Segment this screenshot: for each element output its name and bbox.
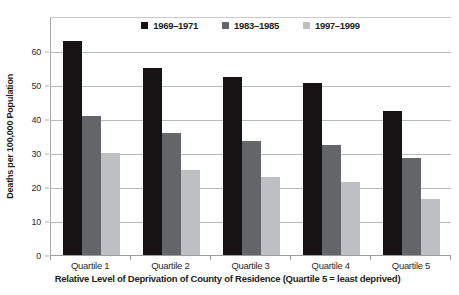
legend-item-1983-1985: 1983–1985 [222, 20, 279, 31]
bar-series3-quartile-5 [421, 199, 440, 255]
legend-label: 1983–1985 [234, 20, 279, 31]
y-tick-label-20: 20 [32, 184, 41, 193]
bar-series2-quartile-1 [82, 116, 101, 255]
bar-series3-quartile-2 [181, 170, 200, 255]
bar-series1-quartile-2 [143, 68, 162, 255]
y-tick-label-40: 40 [32, 116, 41, 125]
y-tick-label-10: 10 [32, 218, 41, 227]
legend-swatch-icon [141, 22, 148, 29]
x-category-label: Quartile 5 [371, 260, 451, 271]
plot-area [50, 17, 451, 256]
x-tick-mark [130, 256, 131, 260]
bar-series2-quartile-4 [322, 145, 341, 256]
legend-label: 1969–1971 [153, 20, 198, 31]
y-tick-label-0: 0 [36, 252, 41, 261]
bar-series1-quartile-3 [223, 77, 242, 256]
legend-item-1997-1999: 1997–1999 [303, 20, 360, 31]
bar-series1-quartile-4 [303, 83, 322, 255]
x-category-label: Quartile 3 [210, 260, 290, 271]
gridline-60 [51, 52, 451, 53]
bar-series3-quartile-3 [261, 177, 280, 255]
y-tick-mark [45, 154, 49, 155]
y-tick-mark [45, 256, 49, 257]
x-category-label: Quartile 1 [50, 260, 130, 271]
x-tick-mark [450, 256, 451, 260]
y-tick-mark [45, 222, 49, 223]
legend-item-1969-1971: 1969–1971 [141, 20, 198, 31]
legend-label: 1997–1999 [315, 20, 360, 31]
bar-chart-figure: Deaths per 100,000 Population 0102030405… [0, 0, 459, 295]
x-tick-mark [210, 256, 211, 260]
y-axis: 0102030405060 [0, 17, 50, 256]
x-axis-title: Relative Level of Deprivation of County … [0, 273, 455, 284]
x-tick-mark [50, 256, 51, 260]
y-tick-mark [45, 188, 49, 189]
x-category-label: Quartile 2 [130, 260, 210, 271]
gridline-50 [51, 86, 451, 87]
bar-series1-quartile-5 [383, 111, 402, 256]
x-tick-mark [370, 256, 371, 260]
bar-series3-quartile-1 [101, 153, 120, 255]
y-tick-mark [45, 52, 49, 53]
y-tick-label-60: 60 [32, 48, 41, 57]
legend: 1969–1971 1983–1985 1997–1999 [50, 20, 451, 31]
y-tick-label-30: 30 [32, 150, 41, 159]
x-tick-mark [290, 256, 291, 260]
legend-swatch-icon [303, 22, 310, 29]
x-axis-category-labels: Quartile 1 Quartile 2 Quartile 3 Quartil… [50, 260, 451, 271]
bar-series2-quartile-5 [402, 158, 421, 255]
y-tick-mark [45, 86, 49, 87]
legend-swatch-icon [222, 22, 229, 29]
y-tick-mark [45, 120, 49, 121]
bar-series3-quartile-4 [341, 182, 360, 255]
bar-series1-quartile-1 [63, 41, 82, 255]
bar-series2-quartile-3 [242, 141, 261, 255]
bar-series2-quartile-2 [162, 133, 181, 255]
y-tick-label-50: 50 [32, 82, 41, 91]
x-category-label: Quartile 4 [291, 260, 371, 271]
